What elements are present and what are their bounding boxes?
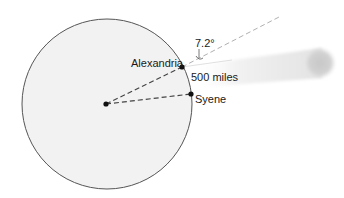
- alexandria-label: Alexandria: [131, 57, 184, 69]
- sun-icon: [304, 47, 336, 79]
- angle-label: 7.2°: [195, 37, 215, 49]
- syene-label: Syene: [195, 93, 226, 105]
- eratosthenes-diagram: 7.2° Alexandria 500 miles Syene: [0, 0, 344, 198]
- syene-point: [188, 91, 193, 96]
- distance-label: 500 miles: [191, 71, 239, 83]
- center-point: [103, 101, 108, 106]
